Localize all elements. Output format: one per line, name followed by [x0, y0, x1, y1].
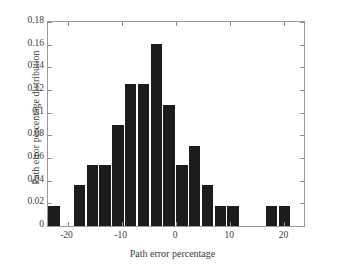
histogram-bar: [189, 146, 201, 226]
x-tick-label: 0: [155, 231, 195, 241]
y-tick-mark: [300, 203, 304, 204]
y-tick-mark: [48, 67, 52, 68]
y-tick-mark: [300, 113, 304, 114]
x-tick-mark: [122, 22, 123, 26]
x-tick-mark: [230, 222, 231, 226]
plot-area: [47, 21, 305, 227]
x-tick-label: 10: [209, 231, 249, 241]
y-tick-mark: [300, 90, 304, 91]
x-tick-mark: [122, 222, 123, 226]
x-tick-mark: [68, 22, 69, 26]
histogram-bar: [215, 206, 227, 226]
y-tick-mark: [48, 90, 52, 91]
y-tick-mark: [48, 158, 52, 159]
y-tick-mark: [300, 22, 304, 23]
histogram-bar: [266, 206, 278, 226]
y-tick-mark: [300, 226, 304, 227]
histogram-bar: [202, 185, 214, 226]
y-tick-mark: [48, 226, 52, 227]
y-tick-mark: [300, 45, 304, 46]
histogram-bar: [112, 125, 124, 226]
histogram-bar: [99, 165, 111, 226]
histogram-bar: [176, 165, 188, 226]
x-tick-mark: [176, 22, 177, 26]
histogram-bar: [48, 206, 60, 226]
x-tick-label: -20: [47, 231, 87, 241]
y-tick-mark: [48, 45, 52, 46]
y-tick-mark: [300, 181, 304, 182]
y-tick-mark: [48, 135, 52, 136]
x-tick-label: -10: [101, 231, 141, 241]
bar-series: [48, 22, 304, 226]
x-tick-mark: [230, 22, 231, 26]
histogram-bar: [87, 165, 99, 226]
x-tick-mark: [284, 22, 285, 26]
x-tick-mark: [284, 222, 285, 226]
histogram-bar: [125, 84, 137, 226]
histogram-bar: [227, 206, 239, 226]
y-tick-mark: [48, 203, 52, 204]
y-tick-mark: [300, 67, 304, 68]
y-axis-title: Path error percentage distribution: [30, 14, 41, 222]
y-tick-mark: [48, 113, 52, 114]
y-tick-mark: [48, 22, 52, 23]
y-tick-mark: [300, 135, 304, 136]
histogram-figure: 00.020.040.060.080.10.120.140.160.18 -20…: [0, 0, 345, 271]
y-tick-mark: [300, 158, 304, 159]
histogram-bar: [74, 185, 86, 226]
x-tick-label: 20: [263, 231, 303, 241]
histogram-bar: [138, 84, 150, 226]
x-tick-mark: [176, 222, 177, 226]
x-axis-title: Path error percentage: [0, 248, 345, 259]
y-tick-mark: [48, 181, 52, 182]
histogram-bar: [163, 105, 175, 226]
histogram-bar: [151, 44, 163, 226]
x-tick-mark: [68, 222, 69, 226]
